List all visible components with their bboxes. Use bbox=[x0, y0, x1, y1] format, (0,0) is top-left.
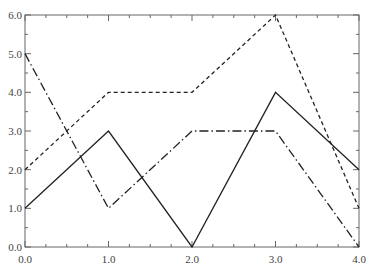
series-line-solid bbox=[25, 92, 359, 247]
y-axis-tick-labels: 0.01.02.03.04.05.06.0 bbox=[8, 9, 22, 253]
y-tick-label: 0.0 bbox=[8, 241, 22, 253]
x-tick-label: 3.0 bbox=[269, 253, 283, 265]
series-line-dashed bbox=[25, 15, 359, 208]
y-tick-label: 5.0 bbox=[8, 48, 22, 60]
plot-frame bbox=[25, 15, 359, 247]
x-tick-label: 0.0 bbox=[18, 253, 32, 265]
x-tick-label: 2.0 bbox=[185, 253, 199, 265]
axis-ticks bbox=[25, 15, 359, 247]
line-chart: 0.01.02.03.04.0 0.01.02.03.04.05.06.0 bbox=[0, 0, 369, 272]
y-tick-label: 1.0 bbox=[8, 202, 22, 214]
y-tick-label: 6.0 bbox=[8, 9, 22, 21]
series-line-dash-dot bbox=[25, 54, 359, 247]
plot-area-border bbox=[25, 15, 359, 247]
x-axis-tick-labels: 0.01.02.03.04.0 bbox=[18, 253, 366, 265]
x-tick-label: 4.0 bbox=[352, 253, 366, 265]
y-tick-label: 2.0 bbox=[8, 164, 22, 176]
y-tick-label: 3.0 bbox=[8, 125, 22, 137]
series-lines bbox=[25, 15, 359, 247]
x-tick-label: 1.0 bbox=[102, 253, 116, 265]
y-tick-label: 4.0 bbox=[8, 86, 22, 98]
